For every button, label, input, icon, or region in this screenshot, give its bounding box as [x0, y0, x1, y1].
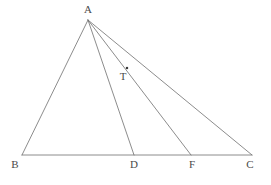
vertex-label-d: D	[130, 159, 138, 170]
vertex-label-c: C	[246, 159, 253, 170]
segment-ab	[22, 20, 88, 155]
vertex-label-a: A	[84, 4, 92, 15]
geometry-figure: A B D F C T	[0, 0, 271, 185]
vertex-label-f: F	[189, 159, 195, 170]
segment-ac	[88, 20, 252, 155]
segment-ad	[88, 20, 134, 155]
vertex-label-t: T	[120, 71, 127, 82]
segment-af	[88, 20, 191, 155]
vertex-label-b: B	[11, 159, 18, 170]
point-marker-t	[126, 67, 128, 69]
